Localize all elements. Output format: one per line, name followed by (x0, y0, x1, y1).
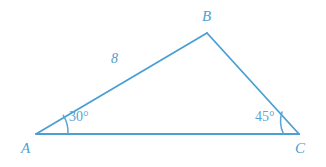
vertex-label-b: B (202, 9, 211, 24)
triangle-diagram-svg (0, 0, 326, 167)
side-ab-line (36, 33, 207, 134)
angle-measure-label-a: 30° (69, 110, 89, 124)
angle-measure-label-c: 45° (255, 110, 275, 124)
side-length-label-ab: 8 (111, 52, 118, 66)
triangle-figure: A B C 8 30° 45° (0, 0, 326, 167)
side-bc-line (207, 33, 299, 134)
angle-arc-a (63, 115, 68, 134)
vertex-label-c: C (295, 141, 305, 156)
vertex-label-a: A (21, 141, 30, 156)
